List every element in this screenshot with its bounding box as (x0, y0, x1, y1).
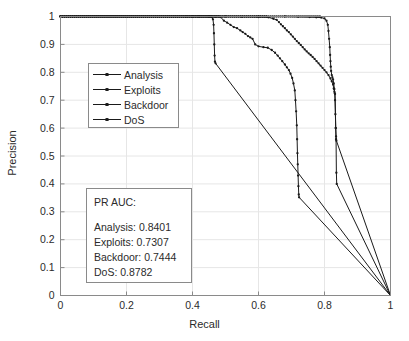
y-axis-label: Precision (6, 113, 18, 193)
x-tick-label: 0.4 (185, 299, 200, 311)
pr-auc-title: PR AUC: (94, 196, 191, 209)
x-tick-label: 0 (58, 299, 64, 311)
y-tick-label: 0.2 (40, 233, 55, 245)
y-tick-label: 0.4 (40, 177, 55, 189)
y-tick-label: 1 (49, 10, 55, 22)
legend-label-exploits: Exploits (121, 84, 161, 96)
legend-item-analysis: Analysis (89, 67, 178, 82)
y-tick-label: 0.9 (40, 38, 55, 50)
x-tick-label: 0.8 (317, 299, 332, 311)
legend: Analysis Exploits Backdoor DoS (88, 63, 179, 128)
legend-item-backdoor: Backdoor (89, 97, 178, 112)
x-tick-label: 0.2 (119, 299, 134, 311)
x-axis-label: Recall (0, 318, 409, 330)
legend-item-exploits: Exploits (89, 82, 178, 97)
y-tick-label: 0.7 (40, 94, 55, 106)
pr-auc-value-backdoor: Backdoor: 0.7444 (94, 250, 191, 265)
legend-line-marker-icon (93, 69, 121, 80)
legend-label-analysis: Analysis (121, 69, 163, 81)
x-tick-label: 0.6 (251, 299, 266, 311)
pr-auc-value-dos: DoS: 0.8782 (94, 265, 191, 280)
legend-line-marker-icon (93, 114, 121, 125)
y-tick-label: 0 (49, 289, 55, 301)
plot-canvas: 00.20.40.60.8100.10.20.30.40.50.60.70.80… (0, 0, 409, 341)
legend-label-backdoor: Backdoor (121, 99, 168, 111)
precision-recall-figure: 00.20.40.60.8100.10.20.30.40.50.60.70.80… (0, 0, 409, 341)
y-tick-label: 0.1 (40, 261, 55, 273)
legend-label-dos: DoS (121, 114, 144, 126)
legend-item-dos: DoS (89, 112, 178, 127)
legend-line-marker-icon (93, 84, 121, 95)
y-tick-label: 0.8 (40, 66, 55, 78)
y-tick-label: 0.5 (40, 150, 55, 162)
pr-auc-value-analysis: Analysis: 0.8401 (94, 220, 191, 235)
pr-auc-value-exploits: Exploits: 0.7307 (94, 235, 191, 250)
y-tick-label: 0.6 (40, 122, 55, 134)
legend-line-marker-icon (93, 99, 121, 110)
x-tick-label: 1 (388, 299, 394, 311)
y-tick-label: 0.3 (40, 205, 55, 217)
pr-auc-annotation-box: PR AUC: Analysis: 0.8401 Exploits: 0.730… (86, 188, 192, 283)
